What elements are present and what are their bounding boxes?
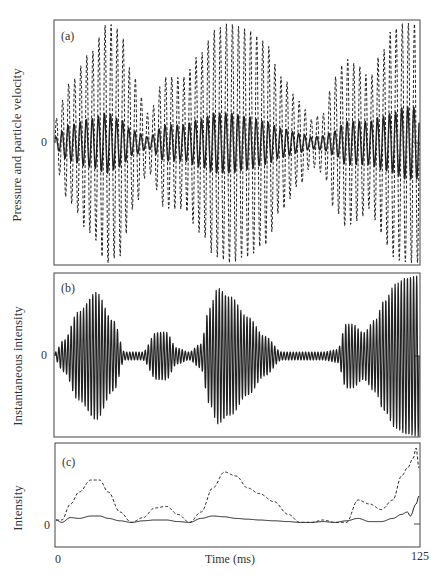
x-tick-125: 125 xyxy=(411,549,429,564)
panel-c: (c) xyxy=(55,443,420,547)
plot-canvas: (a) (b) (c) xyxy=(0,0,442,579)
panel-a-ylabel: Pressure and particle velocity xyxy=(9,60,25,230)
panel-b-label: (b) xyxy=(61,281,75,295)
panel-b: (b) xyxy=(54,273,420,437)
x-axis-label: Time (ms) xyxy=(205,552,255,567)
panel-b-series xyxy=(55,276,419,436)
panel-c-ylabel: Intensity xyxy=(10,478,26,538)
panel-c-frame xyxy=(55,443,420,547)
panel-a-zero-label: 0 xyxy=(41,135,47,150)
figure: (a) (b) (c) Pressure and particle veloci… xyxy=(0,0,442,579)
instantaneous-intensity-line xyxy=(55,276,419,436)
panel-b-zero-label: 0 xyxy=(41,348,47,363)
panel-a-series xyxy=(55,23,419,263)
panel-b-ylabel: Instantaneous intensity xyxy=(10,301,26,431)
x-tick-0: 0 xyxy=(55,552,61,567)
panel-c-zero-label: 0 xyxy=(44,518,50,533)
intensity-solid-line xyxy=(56,496,419,522)
panel-c-label: (c) xyxy=(62,455,75,469)
intensity-dashed-line xyxy=(56,448,419,522)
panel-a: (a) xyxy=(54,20,420,265)
panel-a-label: (a) xyxy=(61,29,74,43)
panel-c-series xyxy=(56,448,419,522)
